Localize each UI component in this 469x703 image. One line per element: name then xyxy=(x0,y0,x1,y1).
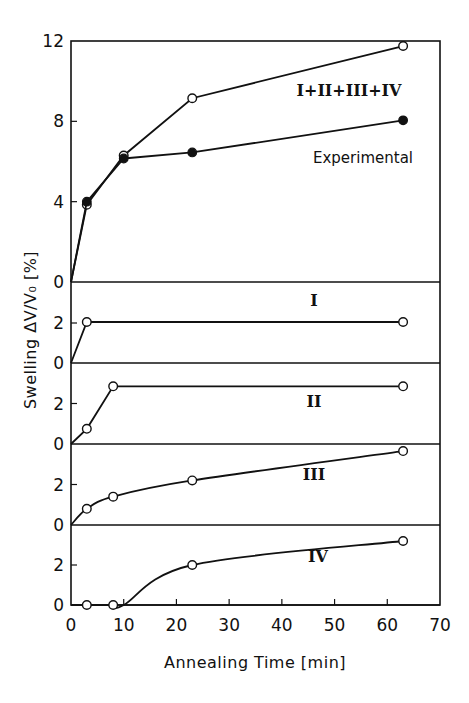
y-tick-label: 0 xyxy=(53,353,64,373)
series-line xyxy=(71,541,403,608)
y-tick-label: 2 xyxy=(53,555,64,575)
data-point xyxy=(399,447,408,456)
y-tick-label: 0 xyxy=(53,515,64,535)
series-label: I+II+III+IV xyxy=(296,81,402,100)
series-label: I xyxy=(310,291,317,310)
data-point xyxy=(83,425,92,434)
x-tick-label: 0 xyxy=(66,615,77,635)
plot-frame xyxy=(71,41,440,605)
y-tick-label: 12 xyxy=(42,31,64,51)
y-tick-label: 0 xyxy=(53,272,64,292)
x-tick-label: 30 xyxy=(218,615,240,635)
series-line xyxy=(71,322,403,363)
series-i: I xyxy=(71,291,407,363)
panel-total: 04812I+II+III+IVExperimental xyxy=(42,31,440,292)
series-line xyxy=(71,386,403,444)
data-point xyxy=(399,318,408,327)
panel-i: 02I xyxy=(53,291,440,373)
x-tick-label: 10 xyxy=(113,615,135,635)
panels: 04812I+II+III+IVExperimental02I02II02III… xyxy=(42,31,440,615)
data-point xyxy=(188,476,197,485)
x-tick-label: 20 xyxy=(166,615,188,635)
data-point xyxy=(188,148,197,157)
data-point xyxy=(83,318,92,327)
data-point xyxy=(109,382,118,391)
series-label: IV xyxy=(308,547,328,566)
series-line xyxy=(71,120,403,282)
series-experimental: Experimental xyxy=(71,116,413,282)
data-point xyxy=(119,154,128,163)
x-tick-label: 70 xyxy=(429,615,451,635)
data-point xyxy=(399,537,408,546)
y-axis-title: Swelling ΔV/V₀ [%] xyxy=(21,251,40,409)
series-ii: II xyxy=(71,382,407,444)
x-axis-title: Annealing Time [min] xyxy=(164,653,346,672)
y-tick-label: 8 xyxy=(53,111,64,131)
data-point xyxy=(83,197,92,206)
panel-ii: 02II xyxy=(53,382,440,454)
panel-iv: 02IV xyxy=(53,537,440,615)
series-label: Experimental xyxy=(313,149,413,167)
y-tick-label: 0 xyxy=(53,595,64,615)
data-point xyxy=(399,42,408,51)
y-tick-label: 0 xyxy=(53,434,64,454)
series-label: II xyxy=(307,392,322,411)
y-tick-label: 2 xyxy=(53,313,64,333)
x-tick-label: 60 xyxy=(376,615,398,635)
series-label: III xyxy=(303,465,325,484)
series-iv: IV xyxy=(71,537,407,610)
plot-border xyxy=(71,41,440,605)
data-point xyxy=(83,601,92,610)
y-tick-label: 2 xyxy=(53,394,64,414)
data-point xyxy=(109,492,118,501)
y-tick-label: 4 xyxy=(53,192,64,212)
data-point xyxy=(399,382,408,391)
series-iii: III xyxy=(71,447,407,525)
data-point xyxy=(188,94,197,103)
y-tick-label: 2 xyxy=(53,475,64,495)
swelling-chart: 04812I+II+III+IVExperimental02I02II02III… xyxy=(0,0,469,703)
series-line xyxy=(71,451,403,525)
data-point xyxy=(109,601,118,610)
data-point xyxy=(399,116,408,125)
panel-iii: 02III xyxy=(53,447,440,535)
x-tick-label: 40 xyxy=(271,615,293,635)
data-point xyxy=(83,505,92,514)
data-point xyxy=(188,561,197,570)
x-tick-label: 50 xyxy=(324,615,346,635)
